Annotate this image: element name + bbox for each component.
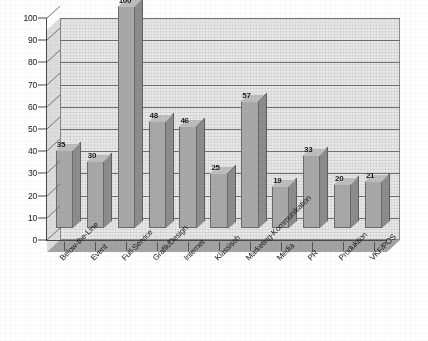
bar-side-face [73,142,81,228]
bar-side-face [135,0,143,228]
y-axis-tick-label: 30 [28,168,37,178]
bar-side-face [320,147,328,228]
bar-side-face [166,113,174,228]
y-axis-tick-label: 0 [32,235,37,245]
bar [241,101,258,228]
bar-value-label: 33 [304,145,312,154]
bar-side-face [197,118,205,228]
bar-side-face [228,164,236,228]
bar [179,126,196,228]
y-axis-tick-label: 10 [28,213,37,223]
bar-front-face [149,121,166,228]
bar-value-label: 100 [119,0,131,5]
bar [303,155,320,228]
y-axis-tick-label: 70 [28,80,37,90]
bar-front-face [118,6,135,228]
y-axis-tick-label: 80 [28,57,37,67]
bar [118,6,135,228]
bar-value-label: 25 [211,163,219,172]
bar-front-face [56,150,73,228]
y-axis-tick-label: 60 [28,102,37,112]
bar-value-label: 46 [180,116,188,125]
x-axis-line [46,240,387,241]
bar-value-label: 57 [242,91,250,100]
plot-area: 35301004846255719332021 [47,18,400,252]
y-axis-tick-label: 40 [28,146,37,156]
bar-value-label: 35 [57,140,65,149]
x-axis-labels: Below-the-LineEventFull-ServiceGrafik/De… [0,252,428,341]
bar [87,161,104,228]
y-axis: 0102030405060708090100 [0,0,47,252]
bar-side-face [259,93,267,228]
bar [56,150,73,228]
bar [149,121,166,228]
y-axis-tick-label: 20 [28,191,37,201]
bar-side-face [382,173,390,228]
y-axis-tick-label: 90 [28,35,37,45]
bar [210,173,227,229]
bar-front-face [210,173,227,229]
bar-front-face [241,101,258,228]
bar-chart: 0102030405060708090100 35301004846255719… [0,0,428,341]
bar-front-face [303,155,320,228]
bar-front-face [87,161,104,228]
bar [365,181,382,228]
bar-series: 35301004846255719332021 [47,18,400,252]
bar-front-face [365,181,382,228]
bar-value-label: 19 [273,176,281,185]
y-axis-tick-label: 100 [23,13,37,23]
bar-value-label: 30 [88,151,96,160]
y-axis-line [46,18,47,240]
bar [334,184,351,228]
bar-front-face [179,126,196,228]
bar-value-label: 20 [335,174,343,183]
bar-value-label: 48 [150,111,158,120]
y-axis-tick-label: 50 [28,124,37,134]
bar-side-face [104,153,112,228]
bar-front-face [334,184,351,228]
bar-value-label: 21 [366,171,374,180]
